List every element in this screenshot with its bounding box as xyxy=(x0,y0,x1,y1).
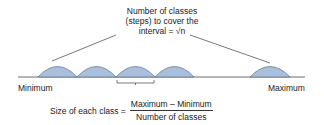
label-line-3: interval = √n xyxy=(110,26,214,36)
class-arc-last xyxy=(250,67,290,78)
class-arc-1 xyxy=(38,67,77,78)
label-line-1: Number of classes xyxy=(110,6,214,16)
formula-lhs: Size of each class = xyxy=(50,106,126,116)
label-line-2: (steps) to cover the xyxy=(110,16,214,26)
class-arc-2 xyxy=(77,67,116,78)
formula-denominator: Number of classes xyxy=(136,111,206,122)
class-arc-3 xyxy=(116,67,155,78)
pointer-line-right xyxy=(190,35,270,63)
formula-fraction: Maximum – Minimum Number of classes xyxy=(130,99,213,122)
pointer-line-left xyxy=(52,35,116,61)
maximum-label: Maximum xyxy=(268,83,305,93)
formula-numerator: Maximum – Minimum xyxy=(130,99,213,111)
class-arc-4 xyxy=(155,67,194,78)
class-brace xyxy=(117,80,154,85)
class-size-formula: Size of each class = Maximum – Minimum N… xyxy=(50,99,213,122)
minimum-label: Minimum xyxy=(18,83,52,93)
classes-count-label: Number of classes (steps) to cover the i… xyxy=(110,6,214,36)
